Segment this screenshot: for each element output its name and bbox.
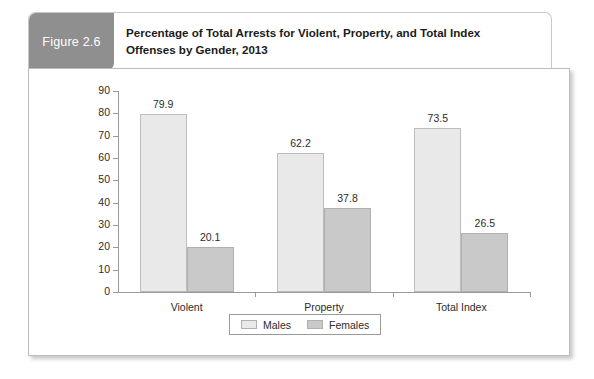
y-axis-tick-mark xyxy=(113,292,118,293)
figure-title-line-1: Percentage of Total Arrests for Violent,… xyxy=(126,26,480,39)
bar-value-label: 79.9 xyxy=(140,98,187,110)
y-axis-tick-mark xyxy=(113,247,118,248)
figure-screenshot: Figure 2.6 Percentage of Total Arrests f… xyxy=(0,0,594,379)
y-axis-tick-mark xyxy=(113,91,118,92)
bar-violent-males xyxy=(140,114,187,292)
bar-value-label: 37.8 xyxy=(324,192,371,204)
x-axis-category-label: Property xyxy=(264,301,384,313)
y-axis-tick-mark xyxy=(113,180,118,181)
bar-value-label: 73.5 xyxy=(414,112,461,124)
x-axis-tick-mark xyxy=(393,292,394,297)
legend-swatch-females xyxy=(307,320,323,329)
bar-value-label: 62.2 xyxy=(277,137,324,149)
y-axis-tick-label: 70 xyxy=(98,129,110,141)
legend-swatch-males xyxy=(241,320,257,329)
y-axis-tick-label: 90 xyxy=(98,84,110,96)
legend-item-females: Females xyxy=(307,319,369,331)
y-axis-tick-label: 30 xyxy=(98,218,110,230)
legend-item-males: Males xyxy=(241,319,291,331)
bar-violent-females xyxy=(187,247,234,292)
figure-title-line-2: Offenses by Gender, 2013 xyxy=(126,41,526,58)
y-axis-tick-label: 60 xyxy=(98,151,110,163)
y-axis-tick-label: 20 xyxy=(98,240,110,252)
x-axis-tick-mark xyxy=(530,292,531,297)
y-axis-line xyxy=(118,91,119,292)
bar-value-label: 20.1 xyxy=(187,231,234,243)
figure-number-badge: Figure 2.6 xyxy=(29,13,114,70)
x-axis-category-label: Violent xyxy=(127,301,247,313)
legend-label: Females xyxy=(329,319,369,331)
bar-property-females xyxy=(324,208,371,292)
legend-label: Males xyxy=(263,319,291,331)
y-axis-tick-label: 0 xyxy=(104,285,110,297)
x-axis-category-label: Total Index xyxy=(401,301,521,313)
y-axis-tick-label: 40 xyxy=(98,196,110,208)
bar-property-males xyxy=(277,153,324,292)
y-axis-tick-label: 10 xyxy=(98,263,110,275)
y-axis-tick-mark xyxy=(113,113,118,114)
bar-value-label: 26.5 xyxy=(461,217,508,229)
chart-card: 010203040506070809079.920.1Violent62.237… xyxy=(28,68,570,356)
y-axis-tick-label: 80 xyxy=(98,106,110,118)
chart-legend: MalesFemales xyxy=(229,314,381,335)
x-axis-line xyxy=(118,292,530,293)
figure-header-card: Figure 2.6 Percentage of Total Arrests f… xyxy=(28,12,552,70)
y-axis-tick-mark xyxy=(113,203,118,204)
x-axis-tick-mark xyxy=(255,292,256,297)
bar-chart-plot: 010203040506070809079.920.1Violent62.237… xyxy=(118,91,530,292)
y-axis-tick-mark xyxy=(113,136,118,137)
figure-title: Percentage of Total Arrests for Violent,… xyxy=(126,24,526,58)
bar-total-index-males xyxy=(414,128,461,292)
y-axis-tick-mark xyxy=(113,225,118,226)
y-axis-tick-mark xyxy=(113,158,118,159)
bar-total-index-females xyxy=(461,233,508,292)
y-axis-tick-label: 50 xyxy=(98,173,110,185)
y-axis-tick-mark xyxy=(113,270,118,271)
